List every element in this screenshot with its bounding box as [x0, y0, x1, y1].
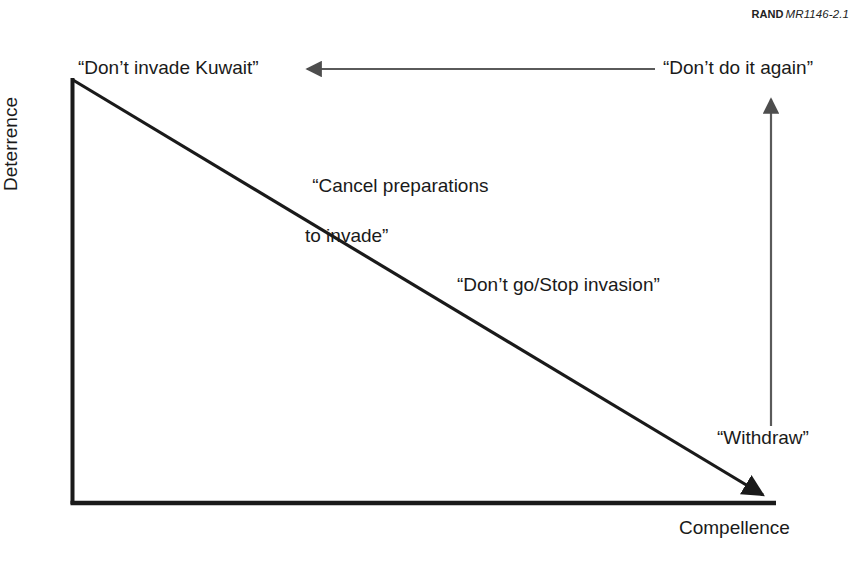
figure-canvas: RANDMR1146-2.1 “Don’t invade Kuwait” “Do…	[0, 0, 863, 562]
annotation-cancel-preparations-line1: “Cancel preparations	[312, 175, 488, 196]
x-axis-title: Compellence	[679, 517, 790, 539]
annotation-dont-invade-kuwait: “Don’t invade Kuwait”	[78, 55, 259, 80]
annotation-dont-go-stop-invasion: “Don’t go/Stop invasion”	[457, 272, 660, 297]
annotation-dont-do-it-again: “Don’t do it again”	[663, 55, 813, 80]
annotation-cancel-preparations-line2: to invade”	[291, 223, 489, 248]
annotation-withdraw: “Withdraw”	[717, 425, 809, 450]
y-axis-title: Deterrence	[0, 96, 22, 192]
